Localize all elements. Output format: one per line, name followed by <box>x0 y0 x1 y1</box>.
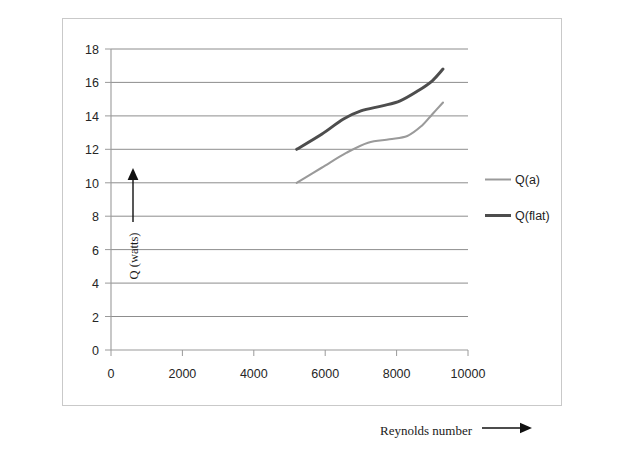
x-tick-label: 10000 <box>451 367 486 381</box>
legend-label-q-a: Q(a) <box>515 173 540 187</box>
y-tick-label: 6 <box>92 244 99 258</box>
y-axis-title-svg: Q (watts) <box>123 134 143 284</box>
y-tick-label: 0 <box>92 344 99 358</box>
y-tick-label: 4 <box>92 277 99 291</box>
y-tick-labels: 18 16 14 12 10 8 6 4 2 0 <box>85 43 99 358</box>
y-axis-title: Q (watts) <box>123 129 147 289</box>
x-tick-label: 4000 <box>240 367 268 381</box>
x-tick-label: 2000 <box>168 367 196 381</box>
data-series-group <box>297 69 443 183</box>
up-arrow-icon <box>128 168 139 222</box>
series-line-q-flat <box>297 69 443 149</box>
x-axis-title-svg: Reynolds number <box>380 420 570 440</box>
y-tick-label: 14 <box>85 110 99 124</box>
x-axis-title: Reynolds number <box>380 420 570 444</box>
x-tick-label: 6000 <box>311 367 339 381</box>
gridlines-horizontal <box>111 49 468 317</box>
chart-legend: Q(a) Q(flat) <box>485 173 550 223</box>
x-tick-label: 8000 <box>383 367 411 381</box>
series-line-q-a <box>297 103 443 183</box>
y-tick-label: 2 <box>92 311 99 325</box>
y-tick-label: 10 <box>85 177 99 191</box>
x-axis-ticks <box>111 350 468 356</box>
x-tick-label: 0 <box>108 367 115 381</box>
y-axis-title-text: Q (watts) <box>127 233 141 280</box>
chart-frame: 18 16 14 12 10 8 6 4 2 0 0 2000 4000 600… <box>62 18 562 406</box>
x-axis-title-text: Reynolds number <box>380 423 473 438</box>
y-tick-label: 16 <box>85 76 99 90</box>
y-tick-label: 18 <box>85 43 99 57</box>
y-axis-ticks <box>105 49 111 350</box>
chart-figure: 18 16 14 12 10 8 6 4 2 0 0 2000 4000 600… <box>0 0 621 456</box>
legend-label-q-flat: Q(flat) <box>515 209 550 223</box>
y-tick-label: 12 <box>85 143 99 157</box>
right-arrow-icon <box>482 423 532 433</box>
x-tick-labels: 0 2000 4000 6000 8000 10000 <box>108 367 486 381</box>
y-tick-label: 8 <box>92 210 99 224</box>
